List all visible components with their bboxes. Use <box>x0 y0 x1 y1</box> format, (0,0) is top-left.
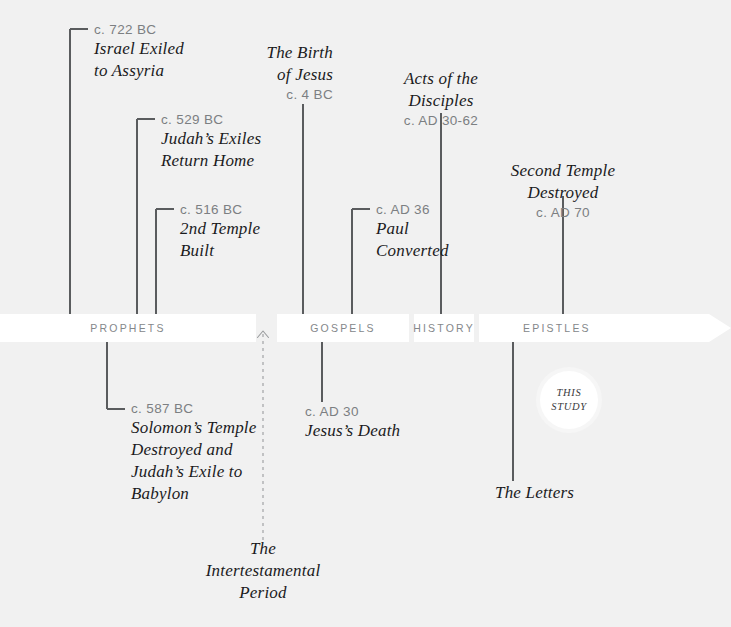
event-title-line: Jesus’s Death <box>305 420 400 442</box>
event-label-letters: The Letters <box>495 482 574 504</box>
intertestamental-title-line: Intertestamental <box>183 560 343 582</box>
event-title-line: Solomon’s Temple <box>131 417 257 439</box>
event-title-line: Disciples <box>361 90 521 112</box>
event-date: c. AD 36 <box>376 201 449 218</box>
event-date: c. 529 BC <box>161 111 261 128</box>
intertestamental-arrow <box>258 331 269 540</box>
event-title-line: of Jesus <box>203 64 333 86</box>
this-study-badge[interactable]: THIS STUDY <box>540 371 598 429</box>
event-label-4bc: The Birth of Jesus c. 4 BC <box>203 42 333 103</box>
bar-segment-label: HISTORY <box>413 322 475 334</box>
event-title-line: 2nd Temple <box>180 218 260 240</box>
event-label-529bc: c. 529 BC Judah’s Exiles Return Home <box>161 111 261 172</box>
event-title-line: Destroyed <box>483 182 643 204</box>
event-date: c. AD 30 <box>305 403 400 420</box>
bar-segment-history[interactable]: HISTORY <box>414 314 474 342</box>
event-title-line: Built <box>180 240 260 262</box>
event-title-line: Second Temple <box>483 160 643 182</box>
event-title-line: The Birth <box>203 42 333 64</box>
bar-segment-gospels[interactable]: GOSPELS <box>277 314 409 342</box>
event-label-ad36: c. AD 36 Paul Converted <box>376 201 449 262</box>
event-title-line: to Assyria <box>94 60 184 82</box>
intertestamental-title-line: Period <box>183 582 343 604</box>
event-title-line: The Letters <box>495 482 574 504</box>
event-label-acts: Acts of the Disciples c. AD 30-62 <box>361 68 521 129</box>
event-title-line: Return Home <box>161 150 261 172</box>
event-label-722bc: c. 722 BC Israel Exiled to Assyria <box>94 21 184 82</box>
event-date: c. AD 70 <box>483 204 643 221</box>
event-title-line: Paul <box>376 218 449 240</box>
event-title-line: Babylon <box>131 483 257 505</box>
event-title-line: Converted <box>376 240 449 262</box>
bar-segment-label: EPISTLES <box>523 322 591 334</box>
event-label-587bc: c. 587 BC Solomon’s Temple Destroyed and… <box>131 400 257 504</box>
event-date: c. 4 BC <box>203 86 333 103</box>
bar-segment-label: GOSPELS <box>310 322 376 334</box>
event-title-line: Acts of the <box>361 68 521 90</box>
event-date: c. 722 BC <box>94 21 184 38</box>
event-date: c. AD 30-62 <box>361 112 521 129</box>
event-title-line: Israel Exiled <box>94 38 184 60</box>
this-study-line: THIS <box>557 386 582 400</box>
event-title-line: Judah’s Exiles <box>161 128 261 150</box>
bar-segment-label: PROPHETS <box>90 322 165 334</box>
event-label-ad70: Second Temple Destroyed c. AD 70 <box>483 160 643 221</box>
event-title-line: Judah’s Exile to <box>131 461 257 483</box>
event-date: c. 516 BC <box>180 201 260 218</box>
intertestamental-title-line: The <box>183 538 343 560</box>
event-title-line: Destroyed and <box>131 439 257 461</box>
event-label-516bc: c. 516 BC 2nd Temple Built <box>180 201 260 262</box>
event-label-ad30-death: c. AD 30 Jesus’s Death <box>305 403 400 442</box>
bar-segment-epistles[interactable]: EPISTLES <box>479 314 731 342</box>
event-date: c. 587 BC <box>131 400 257 417</box>
this-study-line: STUDY <box>551 400 587 414</box>
bar-segment-prophets[interactable]: PROPHETS <box>0 314 256 342</box>
intertestamental-label: The Intertestamental Period <box>183 538 343 603</box>
